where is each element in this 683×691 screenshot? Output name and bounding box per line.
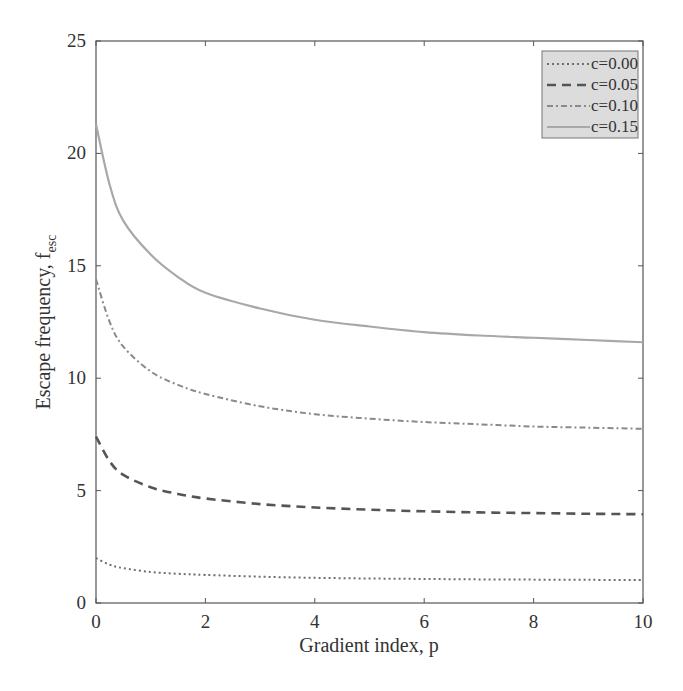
y-axis-label-subscript: esc [44, 235, 59, 253]
x-tick-label: 2 [201, 611, 211, 632]
legend-label: c=0.15 [591, 117, 638, 136]
x-tick-label: 10 [634, 611, 653, 632]
legend: c=0.00c=0.05c=0.10c=0.15 [542, 51, 638, 138]
y-tick-label: 5 [77, 480, 87, 501]
svg-text:Escape frequency, fesc: Escape frequency, fesc [32, 235, 59, 410]
legend-label: c=0.00 [591, 54, 638, 73]
legend-label: c=0.10 [591, 96, 638, 115]
x-tick-label: 0 [91, 611, 101, 632]
x-tick-label: 4 [310, 611, 320, 632]
y-axis-label: Escape frequency, fesc [32, 235, 59, 410]
y-tick-label: 25 [67, 30, 86, 51]
x-tick-label: 8 [529, 611, 539, 632]
y-tick-label: 0 [77, 592, 87, 613]
y-tick-label: 15 [67, 255, 86, 276]
x-axis-label: Gradient index, p [299, 634, 438, 657]
legend-label: c=0.05 [591, 75, 638, 94]
y-tick-label: 10 [67, 367, 86, 388]
y-tick-label: 20 [67, 142, 86, 163]
y-axis-label-main: Escape frequency, f [32, 252, 55, 409]
line-chart: 02468100510152025 Gradient index, p Esca… [0, 0, 683, 691]
x-tick-label: 6 [419, 611, 429, 632]
